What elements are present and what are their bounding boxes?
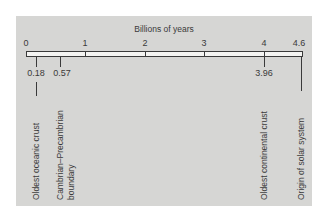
marker-0-57 [60,57,61,67]
label-oldest-continental-crust: Oldest continental crust [259,111,269,200]
label-boundary: boundary [66,165,76,200]
tick-label-4: 4 [261,38,266,48]
axis-title: Billions of years [16,24,312,34]
value-0-18: 0.18 [27,68,45,78]
tick-label-1: 1 [82,38,87,48]
timeline-bar [26,51,303,57]
value-0-57: 0.57 [53,68,71,78]
tick-label-4-6: 4.6 [293,38,306,48]
marker-4-6 [301,57,302,89]
marker-0-18 [36,57,37,67]
label-origin-solar-system: Origin of solar system [296,118,306,200]
label-oldest-oceanic-crust: Oldest oceanic crust [31,123,41,200]
leader-solar [301,89,302,91]
timeline-panel: Billions of years 0 1 2 3 4 4.6 0.18 0.5… [16,16,312,206]
tick-2 [145,51,146,57]
value-3-96: 3.96 [255,68,273,78]
tick-label-3: 3 [201,38,206,48]
tick-1 [85,51,86,57]
tick-label-2: 2 [142,38,147,48]
tick-3 [204,51,205,57]
label-cambrian-precambrian: Cambrian–Precambrian [55,110,65,200]
leader-oceanic [36,82,37,96]
tick-label-0: 0 [23,38,28,48]
marker-3-96 [264,57,265,67]
